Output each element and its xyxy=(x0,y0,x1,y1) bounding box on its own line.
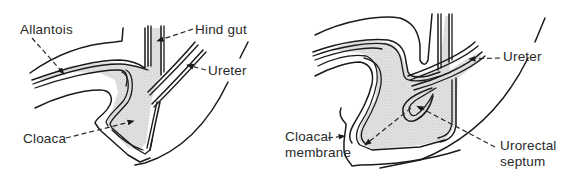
leader-hind-gut xyxy=(157,29,193,41)
right-cloaca-lumen xyxy=(330,16,482,150)
label-urorectal-septum-line2: septum xyxy=(500,154,545,169)
label-urorectal-septum-line1: Urorectal xyxy=(500,138,557,153)
cloaca-diagram: Allantois Hind gut Ureter Cloaca Ureter … xyxy=(0,0,571,185)
label-cloaca: Cloaca xyxy=(23,131,66,146)
label-ureter-left: Ureter xyxy=(208,63,247,78)
label-allantois: Allantois xyxy=(20,22,73,37)
label-hind-gut: Hind gut xyxy=(195,22,247,37)
label-cloacal-membrane-line1: Cloacal xyxy=(285,129,331,144)
label-cloacal-membrane-line2: membrane xyxy=(285,145,351,160)
label-ureter-right: Ureter xyxy=(503,49,542,64)
